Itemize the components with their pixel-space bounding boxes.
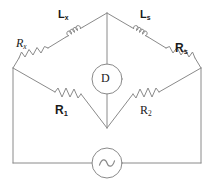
- wire-left-node-to-r1: [13, 68, 55, 92]
- circuit-svg: [0, 0, 214, 180]
- wire-apex-to-lx: [83, 13, 107, 27]
- wire-rs-to-right-node: [195, 58, 201, 68]
- inductor-ls-symbol: [131, 26, 148, 37]
- label-r2: R2: [140, 104, 152, 116]
- wire-apex-to-ls: [107, 13, 131, 27]
- label-rx: Rx: [16, 37, 27, 49]
- resistor-r1-symbol: [55, 88, 81, 98]
- sine-wave-icon: [100, 160, 115, 166]
- wire-r2-to-bottom-node: [107, 94, 133, 128]
- wire-ls-to-rs: [148, 37, 166, 48]
- label-r1: R1: [55, 104, 68, 116]
- label-ls: Ls: [140, 9, 151, 20]
- resistor-r2-symbol: [133, 88, 159, 98]
- wire-right-node-to-r2: [159, 68, 201, 92]
- wire-r1-to-bottom-node: [81, 94, 107, 128]
- label-detector: D: [101, 72, 110, 84]
- circuit-diagram: Lx Ls Rx Rs R1 R2 D: [0, 0, 214, 180]
- inductor-lx-symbol: [66, 26, 83, 37]
- label-rs: Rs: [175, 42, 188, 54]
- wire-lx-to-rx: [48, 37, 66, 48]
- label-lx: Lx: [58, 9, 69, 20]
- wire-rx-to-left-node: [13, 58, 19, 68]
